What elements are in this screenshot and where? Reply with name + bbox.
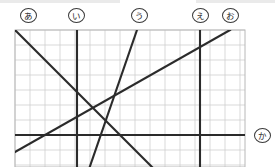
line-u[interactable] (88, 30, 137, 167)
line-o[interactable] (15, 30, 230, 152)
figure-canvas: あいうえおか (0, 0, 275, 167)
line-label-ka: か (254, 128, 271, 143)
line-label-a: あ (20, 8, 37, 23)
line-a[interactable] (15, 30, 157, 167)
line-diagram (0, 0, 275, 167)
line-label-e: え (192, 8, 209, 23)
drawn-lines (15, 30, 245, 167)
line-label-u: う (131, 8, 148, 23)
line-label-i: い (68, 8, 85, 23)
line-label-o: お (222, 8, 239, 23)
